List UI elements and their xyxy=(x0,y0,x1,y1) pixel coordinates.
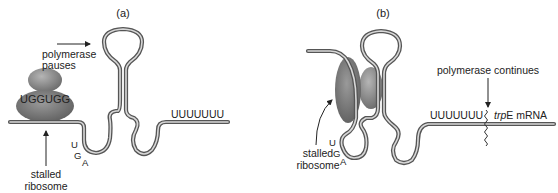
gene-name-suffix: E mRNA xyxy=(506,109,547,121)
stalled-label-a-line2: ribosome xyxy=(24,180,67,192)
stalled-label-b-line2: ribosome xyxy=(296,159,339,171)
ribosome-codons: UGGUGG xyxy=(20,93,70,105)
polymerase-continues-label: polymerase continues xyxy=(437,64,539,76)
trpe-mrna-label: trpE mRNA xyxy=(494,109,547,121)
attenuation-diagram: (a) UGGUGG polymerase pauses stalled rib… xyxy=(0,0,558,193)
poly-u-a: UUUUUUU xyxy=(171,108,224,120)
gene-name-italic: trp xyxy=(494,109,506,121)
panel-a-label: (a) xyxy=(116,7,129,19)
polymerase-label-line2: pauses xyxy=(42,59,76,71)
stop-codon-a-b: A xyxy=(340,156,347,167)
stalled-label-b-line1: stalled xyxy=(303,147,334,159)
stop-codon-g-a: G xyxy=(74,150,81,161)
panel-a: (a) UGGUGG polymerase pauses stalled rib… xyxy=(10,7,228,192)
stalled-label-a-line1: stalled xyxy=(31,168,62,180)
stalled-ribosome-a: UGGUGG xyxy=(16,68,74,122)
panel-b-label: (b) xyxy=(376,7,389,19)
stop-codon-u-b: U xyxy=(329,137,336,148)
stop-codon-a-a: A xyxy=(82,157,89,168)
stop-codon-u-a: U xyxy=(71,139,78,150)
poly-u-b: UUUUUUU xyxy=(430,109,483,121)
polymerase-squiggle xyxy=(485,110,488,146)
panel-b: (b) polymerase continues UUUUUUU trpE mR… xyxy=(296,7,554,171)
